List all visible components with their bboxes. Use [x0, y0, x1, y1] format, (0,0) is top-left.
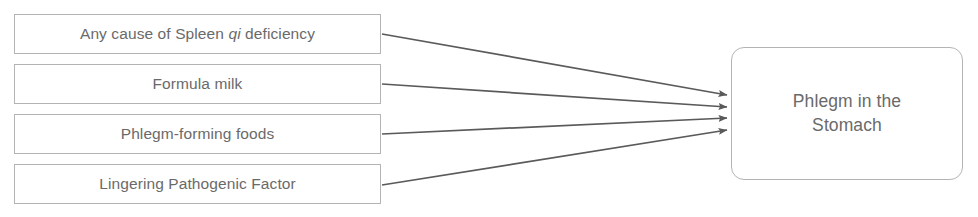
cause-node-label: Phlegm-forming foods: [121, 125, 275, 143]
effect-node-phlegm-in-the-stomach: Phlegm in theStomach: [731, 47, 963, 180]
cause-label-segment: Formula milk: [153, 75, 243, 92]
cause-node-label: Any cause of Spleen qi deficiency: [80, 25, 315, 43]
cause-node-spleen-qi-deficiency: Any cause of Spleen qi deficiency: [14, 14, 381, 54]
effect-node-label: Phlegm in theStomach: [793, 90, 901, 137]
arrow-phlegm-forming-foods-to-phlegm: [382, 118, 727, 134]
effect-label-line-1: Phlegm in the: [793, 91, 901, 111]
cause-node-label: Formula milk: [153, 75, 243, 93]
effect-label-line-2: Stomach: [812, 115, 882, 135]
cause-label-segment: Lingering Pathogenic Factor: [99, 175, 296, 192]
arrow-spleen-qi-deficiency-to-phlegm: [382, 34, 727, 95]
arrow-lingering-pathogenic-factor-to-phlegm: [382, 130, 727, 185]
cause-label-segment: Phlegm-forming foods: [121, 125, 275, 142]
cause-label-italic-term: qi: [228, 25, 240, 42]
causal-diagram: Any cause of Spleen qi deficiency Formul…: [0, 0, 978, 217]
cause-node-lingering-pathogenic-factor: Lingering Pathogenic Factor: [14, 164, 381, 204]
arrow-formula-milk-to-phlegm: [382, 84, 727, 107]
cause-label-segment-tail: deficiency: [241, 25, 315, 42]
cause-node-phlegm-forming-foods: Phlegm-forming foods: [14, 114, 381, 154]
cause-node-label: Lingering Pathogenic Factor: [99, 175, 296, 193]
cause-label-segment: Any cause of Spleen: [80, 25, 229, 42]
cause-node-formula-milk: Formula milk: [14, 64, 381, 104]
